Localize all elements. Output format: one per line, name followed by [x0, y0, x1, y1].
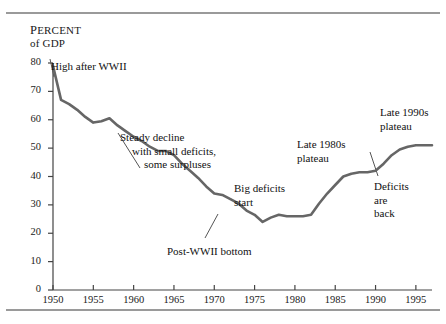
y-axis-ticks	[48, 63, 53, 290]
annotation-line: Late 1990s	[380, 106, 429, 120]
x-axis-tick-label: 1960	[114, 294, 154, 305]
annotation-line: some surpluses	[120, 158, 216, 172]
annotation-line: High after WWII	[51, 60, 127, 74]
y-axis-tick-label: 80	[19, 56, 41, 67]
annotation-line: Late 1980s	[297, 138, 346, 152]
annotation-line: Deficits	[374, 180, 409, 194]
annotation-late-1980s-plateau: Late 1980splateau	[297, 138, 346, 165]
x-axis-tick-label: 1970	[194, 294, 234, 305]
y-axis-tick-label: 10	[19, 255, 41, 266]
annotation-line: with small deficits,	[120, 145, 216, 159]
annotation-line: start	[234, 196, 285, 210]
annotation-line: back	[374, 207, 409, 221]
annotation-late-1990s-plateau: Late 1990splateau	[380, 106, 429, 133]
annotation-line: Post-WWII bottom	[167, 245, 252, 259]
annotation-steady-decline: Steady declinewith small deficits,some s…	[120, 131, 216, 172]
figure-container: PERCENT of GDP 01020304050607080 1950195…	[0, 0, 446, 324]
y-axis-tick-label: 60	[19, 113, 41, 124]
x-axis-ticks	[53, 285, 416, 290]
annotation-line: are	[374, 194, 409, 208]
annotation-high-after-wwii: High after WWII	[51, 60, 127, 74]
y-axis-tick-label: 20	[19, 226, 41, 237]
annotation-line: plateau	[297, 152, 346, 166]
annotation-line: Big deficits	[234, 182, 285, 196]
x-axis-tick-label: 1995	[396, 294, 436, 305]
line-chart-plot	[0, 0, 446, 324]
leader-line-post-wwii-bottom	[205, 214, 218, 238]
x-axis-tick-label: 1975	[235, 294, 275, 305]
y-axis-tick-label: 0	[19, 283, 41, 294]
x-axis-tick-label: 1955	[73, 294, 113, 305]
y-axis-tick-label: 50	[19, 141, 41, 152]
x-axis-tick-label: 1985	[315, 294, 355, 305]
y-axis-tick-label: 40	[19, 170, 41, 181]
x-axis-tick-label: 1950	[33, 294, 73, 305]
annotation-line: Steady decline	[120, 131, 216, 145]
x-axis-tick-label: 1965	[154, 294, 194, 305]
x-axis-tick-label: 1980	[275, 294, 315, 305]
annotation-line: plateau	[380, 120, 429, 134]
annotation-deficits-are-back: Deficitsareback	[374, 180, 409, 221]
annotation-big-deficits-start: Big deficitsstart	[234, 182, 285, 209]
y-axis-tick-label: 70	[19, 84, 41, 95]
y-axis-tick-label: 30	[19, 198, 41, 209]
annotation-post-wwii-bottom: Post-WWII bottom	[167, 245, 252, 259]
x-axis-tick-label: 1990	[356, 294, 396, 305]
